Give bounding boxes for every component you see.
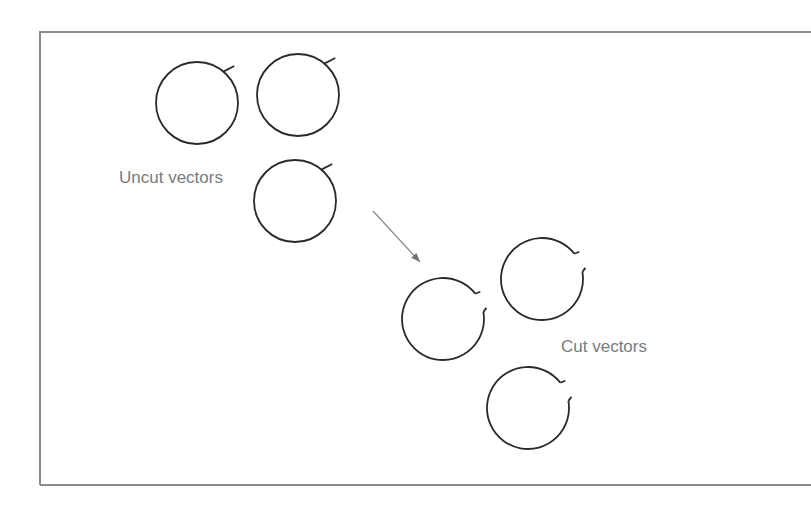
cut-vector-circle	[501, 238, 585, 320]
uncut-vector-circle	[254, 160, 336, 242]
vector-diagram	[0, 0, 811, 506]
cut-vector-circle	[487, 367, 571, 449]
uncut-vector-circle	[156, 62, 238, 144]
uncut-vectors-label: Uncut vectors	[119, 168, 223, 188]
uncut-vectors-group	[156, 54, 339, 242]
cut-vector-circle	[402, 278, 486, 360]
cut-vectors-group	[402, 238, 585, 449]
cut-vectors-label: Cut vectors	[561, 337, 647, 357]
arrow-icon	[373, 211, 420, 262]
uncut-vector-circle	[257, 54, 339, 136]
